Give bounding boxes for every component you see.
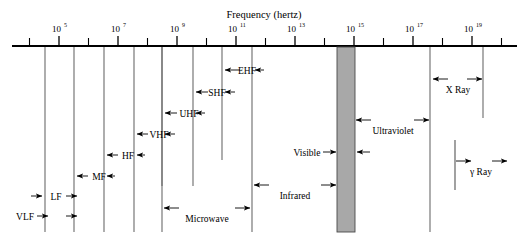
tick-label-6: 10 17 [405, 22, 423, 34]
tick-mantissa-6: 10 [405, 24, 415, 34]
band-gammaray: γ Ray [456, 161, 507, 177]
tick-label-1: 10 7 [111, 22, 126, 34]
band-label-shf: SHF [208, 88, 225, 98]
band-visible: Visible [294, 148, 370, 158]
band-label-microwave: Microwave [185, 214, 228, 224]
tick-mantissa-0: 10 [52, 24, 62, 34]
tick-exponent-0: 5 [64, 22, 67, 28]
band-label-lf: LF [50, 192, 61, 202]
band-label-ehf: EHF [238, 66, 256, 76]
tick-exponent-6: 17 [417, 22, 423, 28]
band-infrared: Infrared [254, 185, 336, 201]
band-label-infrared: Infrared [280, 191, 311, 201]
band-dividers [45, 47, 483, 232]
band-ehf: EHF [225, 66, 264, 76]
tick-label-2: 10 9 [170, 22, 185, 34]
axis-tick-labels: 10 5 10 7 10 9 10 11 10 13 10 15 [52, 22, 482, 34]
band-vhf: VHF [137, 130, 175, 140]
tick-mantissa-1: 10 [111, 24, 121, 34]
tick-mantissa-7: 10 [464, 24, 474, 34]
band-ultraviolet: Ultraviolet [356, 120, 429, 136]
band-label-ultraviolet: Ultraviolet [372, 126, 414, 136]
tick-label-7: 10 19 [464, 22, 482, 34]
tick-exponent-3: 11 [240, 22, 246, 28]
spectrum-svg: Frequency (hertz) [0, 0, 529, 244]
tick-exponent-7: 19 [476, 22, 482, 28]
band-label-hf: HF [122, 151, 134, 161]
spectrum-diagram: Frequency (hertz) [0, 0, 529, 244]
tick-mantissa-2: 10 [170, 24, 180, 34]
band-lf: LF [31, 192, 77, 202]
tick-label-3: 10 11 [228, 22, 246, 34]
tick-mantissa-5: 10 [346, 24, 356, 34]
band-mf: MF [77, 172, 115, 182]
tick-label-0: 10 5 [52, 22, 67, 34]
band-label-xray: X Ray [446, 85, 471, 95]
band-xray: X Ray [433, 79, 482, 95]
tick-exponent-2: 9 [182, 22, 185, 28]
band-vlf: VLF [16, 212, 77, 222]
band-label-gammaray: γ Ray [469, 167, 492, 177]
band-label-vlf: VLF [16, 212, 34, 222]
axis-minor-ticks [30, 38, 502, 46]
band-label-uhf: UHF [179, 109, 198, 119]
band-uhf: UHF [165, 109, 205, 119]
tick-label-4: 10 13 [287, 22, 305, 34]
axis-title: Frequency (hertz) [227, 9, 302, 21]
tick-mantissa-3: 10 [228, 24, 238, 34]
band-hf: HF [107, 151, 145, 161]
band-label-vhf: VHF [149, 130, 168, 140]
tick-exponent-1: 7 [123, 22, 126, 28]
visible-light-band [337, 47, 355, 232]
band-shf: SHF [196, 88, 235, 98]
tick-mantissa-4: 10 [287, 24, 297, 34]
band-microwave: Microwave [164, 208, 250, 224]
tick-exponent-4: 13 [299, 22, 305, 28]
band-label-visible: Visible [294, 148, 321, 158]
tick-label-5: 10 15 [346, 22, 364, 34]
band-label-mf: MF [92, 172, 106, 182]
tick-exponent-5: 15 [358, 22, 364, 28]
